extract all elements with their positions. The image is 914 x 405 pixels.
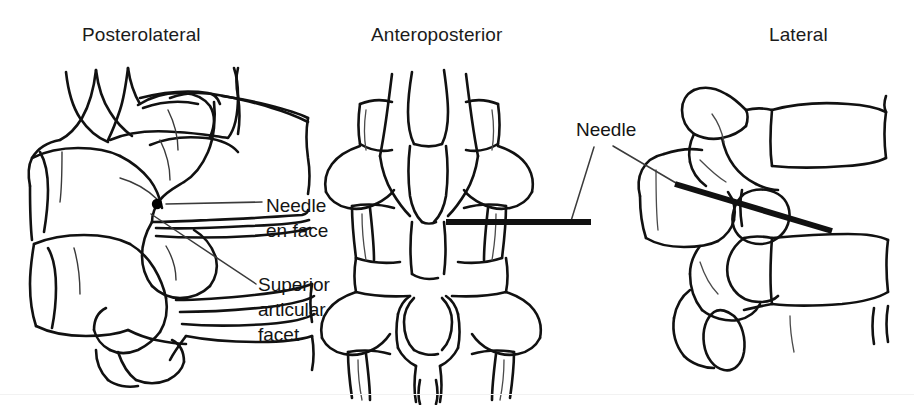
lateral-drawing <box>639 88 888 370</box>
annotation-needle-en-face: Needleen face <box>266 193 328 243</box>
annotation-needle: Needle <box>576 117 636 142</box>
panel-title-anteroposterior: Anteroposterior <box>371 24 502 46</box>
leader-needle-en-face <box>166 202 262 204</box>
leader-superior-articular-facet <box>151 214 256 284</box>
needle-en-face-dot <box>152 199 162 209</box>
annotation-line-2: articular <box>258 299 326 320</box>
leader-needle-ap <box>571 147 594 221</box>
annotation-line-2: en face <box>266 220 328 241</box>
illustration-figure: Posterolateral Anteroposterior Lateral N… <box>0 0 914 405</box>
annotation-line-3: facet <box>258 324 299 345</box>
bottom-divider <box>0 394 914 395</box>
leader-lines <box>151 146 676 284</box>
panel-title-lateral: Lateral <box>769 24 828 46</box>
annotation-line-1: Needle <box>266 195 326 216</box>
leader-needle-lateral <box>613 146 676 183</box>
annotation-superior-articular-facet: Superiorarticularfacet <box>258 272 330 347</box>
anteroposterior-drawing <box>321 70 541 404</box>
panel-title-posterolateral: Posterolateral <box>82 24 201 46</box>
annotation-line-1: Superior <box>258 274 330 295</box>
anatomy-linework <box>0 0 914 405</box>
